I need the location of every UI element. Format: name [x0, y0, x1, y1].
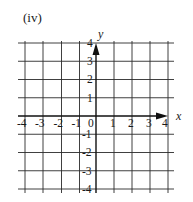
y-tick-label: 3 [87, 55, 93, 67]
y-tick-label: -4 [82, 183, 92, 195]
y-tick-label: 2 [87, 73, 93, 85]
y-tick-label: -3 [82, 165, 92, 177]
x-tick-label: -3 [35, 117, 45, 129]
x-tick-label: -4 [17, 117, 27, 129]
x-tick-label: 4 [162, 117, 168, 129]
coordinate-grid: x y -4 -3 -2 -1 1 2 3 4 0 4 3 2 1 -1 -2 … [0, 0, 193, 202]
x-tick-label: -2 [54, 117, 64, 129]
x-tick-label: 1 [110, 117, 116, 129]
y-tick-label: -1 [82, 128, 92, 140]
y-axis-arrow-icon [93, 43, 100, 55]
y-tick-label: -2 [82, 146, 92, 158]
x-tick-labels: -4 -3 -2 -1 1 2 3 4 0 [17, 117, 168, 129]
y-tick-label: 4 [87, 37, 93, 49]
x-axis-label: x [175, 109, 182, 123]
x-tick-label: 2 [128, 117, 134, 129]
x-tick-label: 3 [146, 117, 152, 129]
x-tick-label: -1 [72, 117, 82, 129]
y-tick-label: 1 [87, 92, 93, 104]
y-axis-label: y [97, 27, 104, 41]
